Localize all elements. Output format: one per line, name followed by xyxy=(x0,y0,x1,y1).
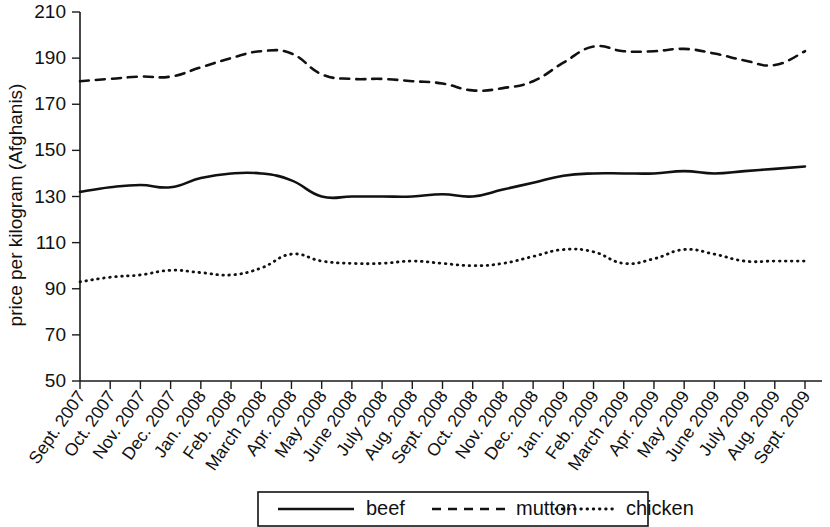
series-line-mutton xyxy=(80,46,805,91)
legend-label-beef: beef xyxy=(366,497,405,519)
y-tick-label: 90 xyxy=(45,278,66,299)
legend-label-chicken: chicken xyxy=(626,497,694,519)
chart-canvas: price per kilogram (Afghanis) 5070901101… xyxy=(0,0,830,527)
axes xyxy=(80,12,822,381)
y-axis-title: price per kilogram (Afghanis) xyxy=(5,84,26,327)
y-axis-title-text: price per kilogram (Afghanis) xyxy=(5,84,26,327)
x-axis-ticks: Sept. 2007Oct. 2007Nov. 2007Dec. 2007Jan… xyxy=(24,381,814,474)
y-tick-label: 50 xyxy=(45,370,66,391)
y-axis-ticks: 507090110130150170190210 xyxy=(34,1,80,391)
chart-legend: beefmuttonchicken xyxy=(258,492,694,526)
series-line-chicken xyxy=(80,249,805,282)
y-tick-label: 110 xyxy=(36,232,66,253)
y-tick-label: 170 xyxy=(34,93,66,114)
y-tick-label: 150 xyxy=(34,139,66,160)
data-series-group xyxy=(80,46,805,282)
y-tick-label: 130 xyxy=(34,186,66,207)
line-chart: price per kilogram (Afghanis) 5070901101… xyxy=(0,0,830,527)
y-tick-label: 70 xyxy=(45,324,66,345)
y-tick-label: 210 xyxy=(34,1,66,22)
series-line-beef xyxy=(80,167,805,199)
y-tick-label: 190 xyxy=(34,47,66,68)
